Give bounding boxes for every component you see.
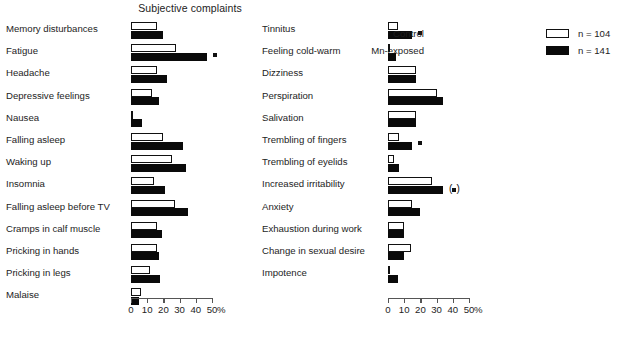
bar-mn-exposed <box>131 208 188 216</box>
chart-row-label: Anxiety <box>262 201 384 212</box>
bar-control <box>131 66 157 74</box>
axis-unit-label: % <box>217 304 226 315</box>
chart-row-label: Fatigue <box>6 45 124 56</box>
legend-swatch-control <box>546 29 569 38</box>
chart-row-label: Trembling of fingers <box>262 134 384 145</box>
bar-mn-exposed <box>388 230 404 238</box>
axis-tick <box>453 298 454 303</box>
chart-row-label: Memory disturbances <box>6 23 124 34</box>
chart-row: Pricking in hands <box>6 242 306 264</box>
bar-control <box>131 89 152 97</box>
bar-control <box>388 66 416 74</box>
chart-row-label: Change in sexual desire <box>262 245 384 256</box>
chart-row-label: Increased irritability <box>262 178 384 189</box>
chart-panel-left: Memory disturbancesFatigueHeadacheDepres… <box>6 20 306 308</box>
axis-tick-label: 50 <box>464 304 475 315</box>
chart-row-label: Cramps in calf muscle <box>6 223 124 234</box>
bar-control <box>388 133 399 141</box>
bar-control <box>388 222 404 230</box>
chart-row: Perspiration <box>262 87 562 109</box>
bar-mn-exposed <box>388 75 416 83</box>
chart-row-label: Headache <box>6 67 124 78</box>
chart-row: Nausea <box>6 109 306 131</box>
chart-row-label: Feeling cold-warm <box>262 45 384 56</box>
axis-tick-label: 0 <box>128 304 133 315</box>
significance-marker-dot <box>213 53 217 57</box>
legend-label-mn-exposed: Mn-exposed <box>371 45 424 56</box>
bar-control <box>388 89 437 97</box>
chart-row-label: Impotence <box>262 267 384 278</box>
axis-line <box>388 298 469 299</box>
bar-mn-exposed <box>388 208 420 216</box>
bar-mn-exposed <box>131 142 183 150</box>
bar-mn-exposed <box>388 252 404 260</box>
axis-tick <box>420 298 421 303</box>
legend-swatch-mn-exposed <box>546 46 569 55</box>
bar-mn-exposed <box>388 142 412 150</box>
bar-control <box>388 177 432 185</box>
axis-tick-label: 20 <box>415 304 426 315</box>
chart-row: Falling asleep <box>6 131 306 153</box>
bar-mn-exposed <box>388 186 443 194</box>
bar-mn-exposed <box>131 275 160 283</box>
bar-control <box>388 266 390 274</box>
chart-panel-right: TinnitusFeeling cold-warmDizzinessPerspi… <box>262 20 562 286</box>
legend-count-mn-exposed: n = 141 <box>578 45 610 56</box>
axis-unit-label: % <box>474 304 483 315</box>
legend-label-control: Control <box>393 28 424 39</box>
axis-tick <box>196 298 197 303</box>
chart-row-label: Malaise <box>6 289 124 300</box>
chart-row-label: Dizziness <box>262 67 384 78</box>
chart-row: Increased irritability() <box>262 175 562 197</box>
chart-row: Waking up <box>6 153 306 175</box>
bar-control <box>131 244 157 252</box>
bar-control <box>131 44 176 52</box>
chart-title: Subjective complaints <box>0 2 380 14</box>
bar-mn-exposed <box>131 75 167 83</box>
bar-mn-exposed <box>131 230 162 238</box>
chart-row: Change in sexual desire <box>262 242 562 264</box>
axis-tick-label: 50 <box>207 304 218 315</box>
significance-marker-paren: ) <box>456 183 459 194</box>
axis-tick <box>147 298 148 303</box>
bar-mn-exposed <box>388 97 443 105</box>
bar-mn-exposed <box>388 275 398 283</box>
axis-tick-label: 40 <box>447 304 458 315</box>
axis-tick <box>437 298 438 303</box>
chart-row-label: Falling asleep <box>6 134 124 145</box>
axis-tick-label: 30 <box>431 304 442 315</box>
bar-mn-exposed <box>131 31 163 39</box>
bar-control <box>131 111 133 119</box>
chart-row: Headache <box>6 64 306 86</box>
bar-mn-exposed <box>131 164 186 172</box>
axis-tick-label: 40 <box>190 304 201 315</box>
bar-control <box>131 266 150 274</box>
chart-row-label: Pricking in hands <box>6 245 124 256</box>
chart-row: Insomnia <box>6 175 306 197</box>
bar-mn-exposed <box>388 119 416 127</box>
chart-row-label: Tinnitus <box>262 23 384 34</box>
axis-tick-label: 20 <box>158 304 169 315</box>
axis-tick-label: 0 <box>385 304 390 315</box>
significance-marker: () <box>449 184 460 195</box>
chart-row: Memory disturbances <box>6 20 306 42</box>
chart-row: Anxiety <box>262 198 562 220</box>
bar-mn-exposed <box>131 53 207 61</box>
axis-tick <box>404 298 405 303</box>
chart-row: Fatigue <box>6 42 306 64</box>
bar-control <box>388 200 412 208</box>
chart-row: Falling asleep before TV <box>6 198 306 220</box>
axis-tick <box>212 298 213 303</box>
bar-control <box>388 244 411 252</box>
significance-marker <box>213 51 217 60</box>
axis-line <box>131 298 212 299</box>
significance-marker <box>418 139 422 148</box>
bar-control <box>131 177 154 185</box>
chart-row: Trembling of fingers <box>262 131 562 153</box>
bar-mn-exposed <box>131 252 159 260</box>
chart-row: Dizziness <box>262 64 562 86</box>
bar-mn-exposed <box>131 186 165 194</box>
chart-row: Salivation <box>262 109 562 131</box>
chart-row: Impotence <box>262 264 562 286</box>
axis-tick <box>388 298 389 303</box>
